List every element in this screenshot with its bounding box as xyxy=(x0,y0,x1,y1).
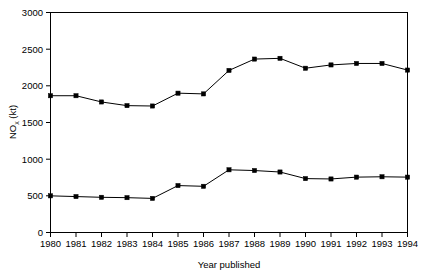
x-tick-label: 1980 xyxy=(40,238,61,249)
data-point-marker xyxy=(354,61,358,65)
x-axis-title: Year published xyxy=(198,259,261,270)
data-point-marker xyxy=(125,104,129,108)
x-tick-label: 1984 xyxy=(142,238,163,249)
y-tick-group: 3000 xyxy=(22,7,51,18)
data-point-marker xyxy=(227,68,231,72)
data-point-marker xyxy=(405,175,409,179)
y-axis: 0 500 1000 1500 2000 2500 xyxy=(22,7,51,238)
y-tick-label: 500 xyxy=(27,190,43,201)
line-chart-svg: 0 500 1000 1500 2000 2500 xyxy=(0,0,428,278)
x-tick-label: 1987 xyxy=(218,238,239,249)
data-point-marker xyxy=(48,194,52,198)
y-tick-label: 2000 xyxy=(22,80,43,91)
y-tick-label: 3000 xyxy=(22,7,43,18)
y-tick-group: 1500 xyxy=(22,117,51,128)
data-point-marker xyxy=(380,175,384,179)
data-point-marker xyxy=(405,68,409,72)
chart-figure: 0 500 1000 1500 2000 2500 xyxy=(0,0,428,278)
y-tick-label: 1500 xyxy=(22,117,43,128)
y-axis-title: NOx (kt) xyxy=(7,105,20,139)
data-point-marker xyxy=(176,183,180,187)
data-point-marker xyxy=(74,94,78,98)
x-tick-label: 1994 xyxy=(397,238,418,249)
x-tick-label: 1990 xyxy=(295,238,316,249)
data-point-marker xyxy=(99,195,103,199)
data-point-marker xyxy=(201,184,205,188)
data-point-marker xyxy=(48,94,52,98)
x-tick-group: 1984 xyxy=(142,233,163,250)
y-axis-title-main: NO xyxy=(7,125,18,139)
data-point-marker xyxy=(354,175,358,179)
y-tick-group: 2500 xyxy=(22,44,51,55)
x-tick-label: 1982 xyxy=(91,238,112,249)
x-tick-group: 1994 xyxy=(397,233,418,250)
x-tick-group: 1985 xyxy=(167,233,188,250)
x-tick-group: 1993 xyxy=(371,233,392,250)
y-tick-label: 1000 xyxy=(22,154,43,165)
y-tick-group: 2000 xyxy=(22,80,51,91)
x-axis: 1980 1981 1982 1983 1984 1985 xyxy=(40,233,418,250)
series-upper-series xyxy=(48,56,409,108)
x-tick-label: 1981 xyxy=(65,238,86,249)
data-point-marker xyxy=(303,177,307,181)
series-layer xyxy=(48,56,409,200)
x-tick-group: 1991 xyxy=(320,233,341,250)
data-point-marker xyxy=(176,91,180,95)
x-tick-group: 1992 xyxy=(346,233,367,250)
y-axis-title-unit: (kt) xyxy=(7,105,18,121)
data-point-marker xyxy=(329,177,333,181)
data-point-marker xyxy=(252,57,256,61)
x-tick-label: 1985 xyxy=(167,238,188,249)
plot-frame xyxy=(51,13,408,233)
x-tick-group: 1987 xyxy=(218,233,239,250)
x-tick-label: 1989 xyxy=(269,238,290,249)
y-tick-label: 0 xyxy=(38,227,43,238)
x-tick-label: 1991 xyxy=(320,238,341,249)
x-tick-group: 1982 xyxy=(91,233,112,250)
x-tick-label: 1983 xyxy=(116,238,137,249)
data-point-marker xyxy=(329,63,333,67)
y-tick-group: 500 xyxy=(27,190,50,201)
y-tick-group: 1000 xyxy=(22,154,51,165)
x-tick-group: 1990 xyxy=(295,233,316,250)
x-tick-group: 1989 xyxy=(269,233,290,250)
data-point-marker xyxy=(99,100,103,104)
x-tick-label: 1988 xyxy=(244,238,265,249)
data-point-marker xyxy=(278,56,282,60)
y-tick-group: 0 xyxy=(38,227,51,238)
y-tick-label: 2500 xyxy=(22,44,43,55)
x-tick-group: 1981 xyxy=(65,233,86,250)
x-tick-group: 1980 xyxy=(40,233,61,250)
data-point-marker xyxy=(278,170,282,174)
x-tick-group: 1986 xyxy=(193,233,214,250)
data-point-marker xyxy=(201,92,205,96)
data-point-marker xyxy=(252,168,256,172)
data-point-marker xyxy=(150,196,154,200)
data-point-marker xyxy=(227,168,231,172)
x-tick-label: 1992 xyxy=(346,238,367,249)
series-line xyxy=(51,58,408,106)
series-lower-series xyxy=(48,168,409,201)
x-tick-label: 1986 xyxy=(193,238,214,249)
data-point-marker xyxy=(74,194,78,198)
series-line xyxy=(51,170,408,199)
x-tick-group: 1983 xyxy=(116,233,137,250)
x-tick-group: 1988 xyxy=(244,233,265,250)
svg-text:NOx (kt): NOx (kt) xyxy=(7,105,20,139)
data-point-marker xyxy=(303,66,307,70)
data-point-marker xyxy=(125,196,129,200)
x-tick-label: 1993 xyxy=(371,238,392,249)
data-point-marker xyxy=(380,61,384,65)
data-point-marker xyxy=(150,104,154,108)
